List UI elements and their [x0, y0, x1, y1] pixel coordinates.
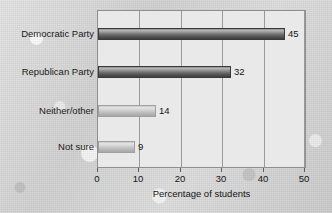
- chart-figure: Democratic Party Republican Party Neithe…: [0, 0, 332, 213]
- bar-republican-party: [98, 66, 231, 78]
- xtick-20: [180, 168, 181, 172]
- xtick-10: [138, 168, 139, 172]
- value-label-neither-other: 14: [159, 106, 170, 116]
- plot-area: [97, 10, 306, 168]
- xtick-label-0: 0: [86, 173, 108, 184]
- xtick-label-10: 10: [127, 173, 149, 184]
- bar-neither-other: [98, 105, 156, 117]
- xtick-40: [263, 168, 264, 172]
- x-axis-label: Percentage of students: [97, 188, 306, 199]
- xtick-label-50: 50: [293, 173, 315, 184]
- xtick-0: [97, 168, 98, 172]
- xtick-30: [221, 168, 222, 172]
- value-label-republican-party: 32: [234, 67, 245, 77]
- category-label-democratic-party: Democratic Party: [0, 29, 94, 39]
- gridline-50: [304, 11, 305, 167]
- value-label-not-sure: 9: [138, 142, 143, 152]
- bar-democratic-party: [98, 28, 285, 40]
- value-label-democratic-party: 45: [288, 29, 299, 39]
- category-label-not-sure: Not sure: [0, 142, 94, 152]
- xtick-label-30: 30: [210, 173, 232, 184]
- xtick-label-40: 40: [252, 173, 274, 184]
- xtick-label-20: 20: [169, 173, 191, 184]
- category-label-republican-party: Republican Party: [0, 67, 94, 77]
- bar-not-sure: [98, 141, 135, 153]
- xtick-50: [304, 168, 305, 172]
- category-label-neither-other: Neither/other: [0, 106, 94, 116]
